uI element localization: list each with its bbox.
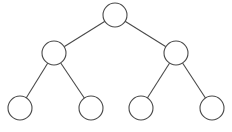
binary-tree-diagram (0, 0, 232, 132)
node-left (42, 41, 66, 65)
node-root (103, 3, 127, 27)
nodes-group (8, 3, 224, 120)
node-left-left (8, 96, 32, 120)
node-left-right (79, 96, 103, 120)
node-right-right (200, 96, 224, 120)
node-right-left (129, 96, 153, 120)
node-right (164, 41, 188, 65)
